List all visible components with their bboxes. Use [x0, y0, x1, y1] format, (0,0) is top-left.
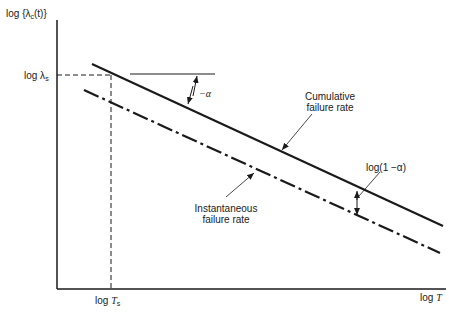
x-label-prefix: log	[420, 292, 433, 303]
x-marker-sub: s	[117, 300, 121, 307]
cumulative-pointer	[282, 114, 312, 150]
offset-label: log(1 −α)	[366, 162, 406, 173]
log-lambda-s-label: log λs	[24, 70, 49, 84]
y-marker-sub: s	[45, 75, 49, 82]
instantaneous-line1: Instantaneous	[176, 203, 276, 214]
instantaneous-label: Instantaneous failure rate	[176, 203, 276, 225]
slope-arrow	[193, 76, 197, 96]
y-label-prefix: log	[6, 8, 19, 19]
y-label-suffix: (t)}	[34, 8, 47, 19]
x-axis-label: log T	[420, 292, 442, 303]
instantaneous-pointer	[226, 173, 254, 197]
cumulative-failure-rate-line	[92, 64, 443, 226]
log-Ts-label: log Ts	[95, 295, 120, 309]
y-axis-label: log {λc(t)}	[6, 8, 47, 22]
slope-arrow-lower	[188, 86, 193, 104]
slope-label: −α	[199, 88, 211, 99]
cumulative-line2: failure rate	[290, 102, 370, 113]
slope-text: −α	[199, 88, 211, 99]
x-marker-prefix: log	[95, 295, 111, 306]
offset-text: log(1 −α)	[366, 162, 406, 173]
x-label-var: T	[436, 292, 442, 303]
instantaneous-line2: failure rate	[176, 214, 276, 225]
y-marker-prefix: log λ	[24, 70, 45, 81]
cumulative-line1: Cumulative	[290, 91, 370, 102]
diagram-canvas	[0, 0, 449, 314]
cumulative-label: Cumulative failure rate	[290, 91, 370, 113]
